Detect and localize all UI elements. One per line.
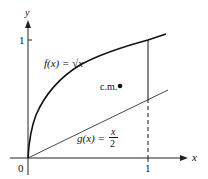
- x-tick-label-1: 1: [145, 163, 151, 174]
- g-label-numerator: x: [111, 127, 115, 137]
- x-axis-label: x: [192, 152, 197, 163]
- center-of-mass-dot: [118, 84, 123, 89]
- g-label: g(x) =: [77, 133, 105, 144]
- f-label: f(x) = √x: [44, 58, 83, 69]
- region-diagram: y x 0 1 1 f(x) = √x c.m. g(x) = x 2: [0, 0, 208, 179]
- x-axis-arrow-icon: [180, 155, 188, 161]
- y-axis-arrow-icon: [25, 20, 31, 28]
- cm-label: c.m.: [100, 82, 117, 92]
- y-axis-label: y: [25, 8, 29, 18]
- origin-label: 0: [18, 163, 24, 174]
- g-label-denominator: 2: [110, 139, 115, 149]
- y-tick-label-1: 1: [19, 35, 25, 46]
- g-line: [28, 90, 168, 158]
